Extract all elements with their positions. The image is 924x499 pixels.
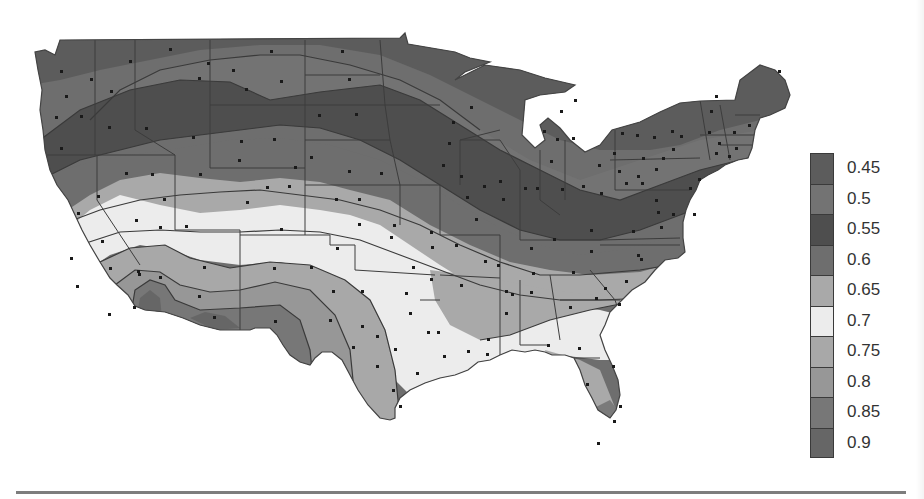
legend-label: 0.45 [847,158,880,178]
legend-swatch [810,397,834,428]
legend-swatch [810,153,834,184]
legend-swatch [810,306,834,337]
color-legend: 0.45 0.5 0.55 0.6 0.65 0.7 0.75 0.8 0.85… [810,153,920,458]
legend-item-9: 0.9 [810,428,920,459]
legend-item-2: 0.55 [810,214,920,245]
legend-swatch [810,275,834,306]
legend-label: 0.5 [847,189,871,209]
page-edge [916,0,924,499]
legend-item-4: 0.65 [810,275,920,306]
legend-label: 0.9 [847,433,871,453]
legend-item-8: 0.85 [810,397,920,428]
bottom-divider [16,491,906,494]
legend-item-1: 0.5 [810,184,920,215]
us-map-svg [0,0,924,499]
legend-swatch [810,245,834,276]
legend-item-7: 0.8 [810,367,920,398]
legend-item-0: 0.45 [810,153,920,184]
legend-label: 0.6 [847,250,871,270]
legend-label: 0.75 [847,341,880,361]
legend-label: 0.7 [847,311,871,331]
legend-swatch [810,214,834,245]
legend-item-6: 0.75 [810,336,920,367]
legend-label: 0.85 [847,402,880,422]
legend-swatch [810,184,834,215]
legend-item-3: 0.6 [810,245,920,276]
legend-label: 0.65 [847,280,880,300]
legend-swatch [810,367,834,398]
legend-label: 0.8 [847,372,871,392]
contour-map [0,0,924,499]
legend-swatch [810,336,834,367]
legend-item-5: 0.7 [810,306,920,337]
legend-label: 0.55 [847,219,880,239]
legend-swatch [810,428,834,459]
